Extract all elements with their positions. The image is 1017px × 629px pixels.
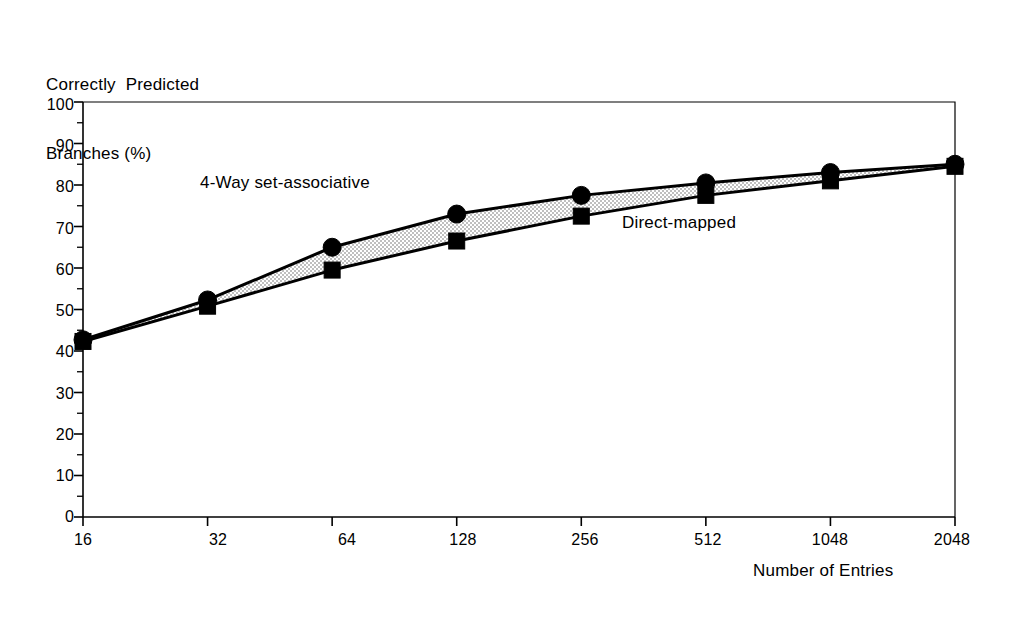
series-band-fill: [83, 164, 955, 341]
chart-figure: Correctly Predicted Branches (%) 4-Way s…: [0, 0, 1017, 629]
series-lines: [83, 164, 955, 341]
plot-area: [0, 0, 1017, 629]
series-markers: [74, 155, 964, 349]
